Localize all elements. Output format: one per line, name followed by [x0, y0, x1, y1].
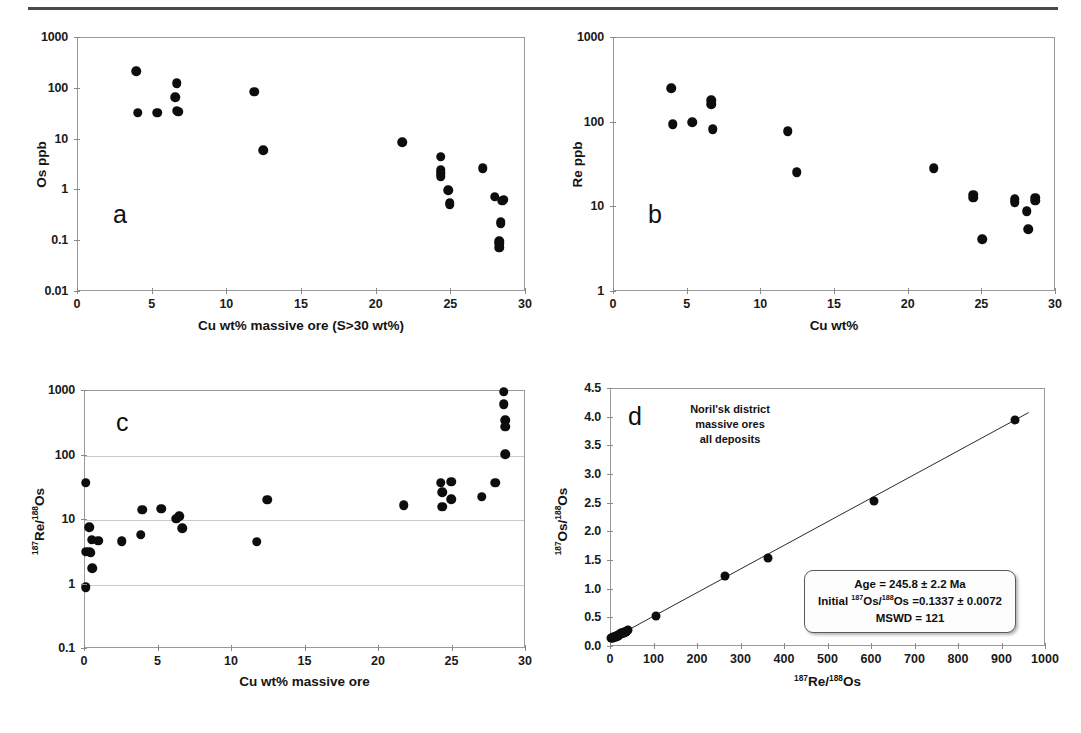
- data-point: [623, 626, 632, 635]
- x-tick-mark: [1002, 643, 1003, 649]
- x-tick-label: 15: [294, 297, 308, 311]
- data-point: [499, 400, 509, 410]
- y-tick-mark: [607, 560, 613, 561]
- x-tick-mark: [1055, 288, 1056, 294]
- x-tick-mark: [450, 288, 451, 294]
- x-tick-mark: [871, 643, 872, 649]
- data-point: [478, 164, 488, 174]
- data-point: [152, 108, 162, 118]
- y-tick-mark: [607, 503, 613, 504]
- panel-c-plot-area: [84, 390, 525, 648]
- x-tick-label: 30: [518, 297, 532, 311]
- x-tick-label: 15: [298, 654, 312, 668]
- x-tick-mark: [152, 288, 153, 294]
- x-tick-label: 25: [445, 654, 459, 668]
- data-point: [497, 196, 507, 206]
- y-tick-mark: [607, 445, 613, 446]
- data-point: [978, 234, 988, 244]
- y-tick-label: 0.1: [0, 641, 75, 655]
- y-tick-label: 100: [0, 81, 68, 95]
- gridline: [85, 585, 524, 586]
- x-tick-mark: [452, 645, 453, 651]
- panel-d-annotation-line-1: Noril'sk district: [660, 402, 800, 417]
- data-point: [136, 530, 146, 540]
- data-point: [174, 511, 184, 521]
- data-point: [437, 502, 447, 512]
- x-tick-label: 30: [518, 654, 532, 668]
- y-tick-mark: [81, 519, 87, 520]
- data-point: [399, 500, 409, 510]
- y-tick-mark: [74, 88, 80, 89]
- data-point: [869, 497, 878, 506]
- x-tick-label: 25: [443, 297, 457, 311]
- data-point: [706, 100, 716, 110]
- y-tick-mark: [610, 37, 616, 38]
- panel-b: b Cu wt% Re ppb 1101001000051015202530: [540, 0, 1081, 366]
- x-tick-label: 100: [643, 652, 664, 666]
- y-tick-label: 1000: [0, 30, 68, 44]
- data-point: [499, 387, 509, 397]
- y-tick-label: 10: [0, 132, 68, 146]
- y-tick-mark: [74, 189, 80, 190]
- data-point: [446, 477, 456, 487]
- x-tick-label: 5: [148, 297, 155, 311]
- y-tick-label: 2.5: [540, 496, 601, 510]
- y-tick-label: 4.5: [540, 381, 601, 395]
- x-tick-label: 25: [974, 297, 988, 311]
- x-tick-label: 0: [74, 297, 81, 311]
- data-point: [501, 422, 511, 432]
- x-tick-label: 600: [861, 652, 882, 666]
- y-tick-mark: [81, 455, 87, 456]
- y-tick-mark: [607, 388, 613, 389]
- x-tick-mark: [908, 288, 909, 294]
- y-tick-mark: [607, 417, 613, 418]
- data-point: [445, 200, 455, 210]
- y-tick-label: 0.0: [540, 639, 601, 653]
- x-tick-mark: [305, 645, 306, 651]
- x-tick-mark: [654, 643, 655, 649]
- data-point: [436, 478, 446, 488]
- y-tick-mark: [81, 390, 87, 391]
- y-tick-mark: [607, 531, 613, 532]
- y-tick-label: 0.01: [0, 284, 68, 298]
- data-point: [131, 67, 141, 77]
- x-tick-mark: [158, 645, 159, 651]
- panel-c-letter: c: [116, 408, 129, 437]
- x-tick-label: 300: [730, 652, 751, 666]
- panel-b-letter: b: [648, 200, 662, 229]
- panel-a-plot-area: [77, 37, 525, 291]
- x-tick-label: 5: [683, 297, 690, 311]
- data-point: [86, 548, 96, 558]
- x-tick-label: 20: [371, 654, 385, 668]
- panel-a-letter: a: [113, 200, 127, 229]
- panel-d: d Noril'sk district massive ores all dep…: [540, 366, 1081, 733]
- data-point: [652, 612, 661, 621]
- panel-c-xaxis-title: Cu wt% massive ore: [84, 674, 525, 689]
- data-point: [496, 219, 506, 229]
- y-tick-label: 1: [540, 284, 604, 298]
- y-tick-label: 3.5: [540, 438, 601, 452]
- x-tick-label: 30: [1048, 297, 1062, 311]
- data-point: [929, 163, 939, 173]
- x-tick-mark: [77, 288, 78, 294]
- x-tick-label: 800: [948, 652, 969, 666]
- x-tick-label: 10: [753, 297, 767, 311]
- y-tick-mark: [81, 584, 87, 585]
- panel-d-letter: d: [628, 402, 642, 431]
- y-tick-label: 1: [0, 182, 68, 196]
- x-tick-mark: [525, 645, 526, 651]
- y-tick-label: 1.0: [540, 582, 601, 596]
- data-point: [85, 523, 95, 533]
- x-tick-label: 400: [774, 652, 795, 666]
- data-point: [170, 93, 180, 103]
- data-point: [252, 537, 262, 547]
- y-tick-label: 1: [0, 577, 75, 591]
- y-tick-mark: [74, 37, 80, 38]
- data-point: [720, 572, 729, 581]
- panel-d-annotation-line-2: massive ores: [660, 417, 800, 432]
- data-point: [444, 186, 454, 196]
- data-point: [494, 243, 504, 253]
- y-tick-label: 0.1: [0, 233, 68, 247]
- panel-d-stats-box: Age = 245.8 ± 2.2 Ma Initial 187Os/188Os…: [804, 570, 1016, 633]
- x-tick-mark: [301, 288, 302, 294]
